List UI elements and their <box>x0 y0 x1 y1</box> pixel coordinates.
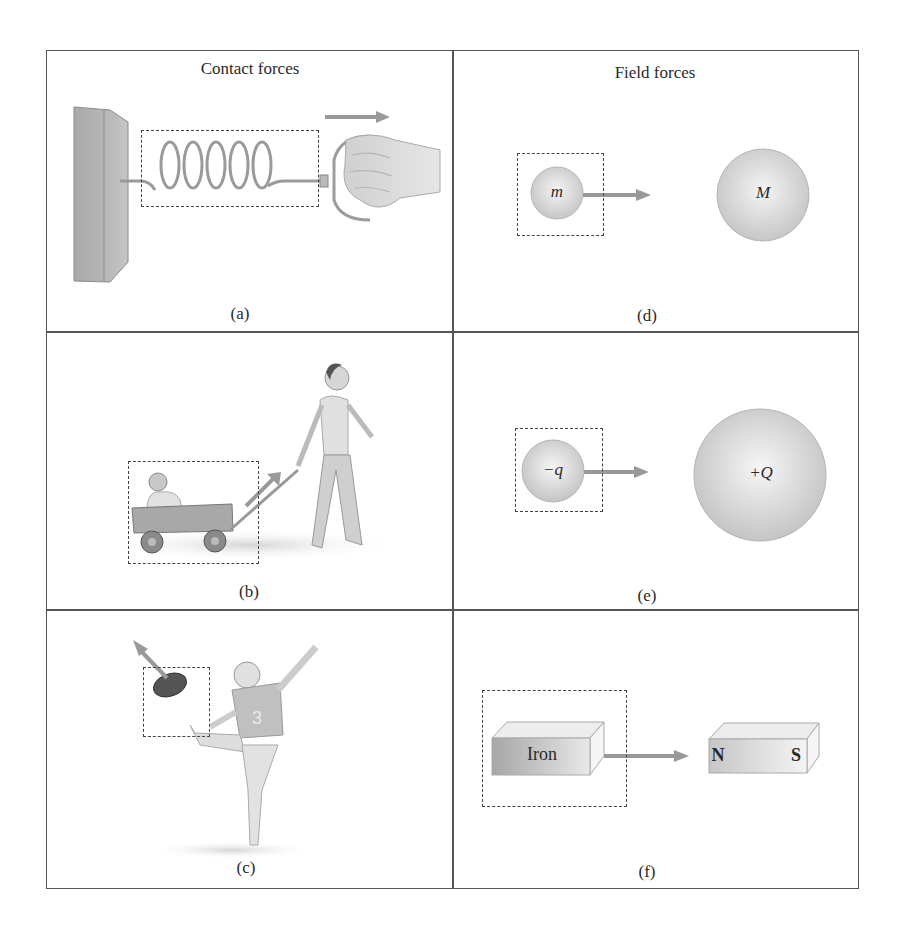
south-pole-label: S <box>781 745 811 766</box>
panel-label-f: (f) <box>627 862 667 882</box>
iron-label: Iron <box>512 744 572 765</box>
north-pole-label: N <box>703 745 733 766</box>
magnet-iron-illustration <box>0 0 910 938</box>
